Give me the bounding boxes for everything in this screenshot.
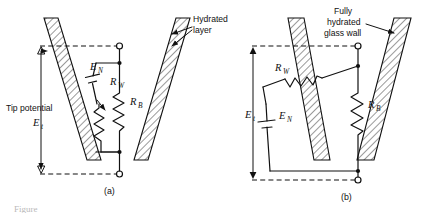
et-symbol-b: E xyxy=(244,109,252,120)
label-rw-a: R xyxy=(109,76,117,87)
label-rb-a: R xyxy=(129,96,137,107)
panel-label-a: (a) xyxy=(104,186,115,196)
label-rb-b: R xyxy=(367,99,375,110)
label-rw-sub-a: W xyxy=(118,81,125,90)
fully-hydrated-line1-b: Fully xyxy=(334,6,353,16)
label-rw-sub-b: W xyxy=(283,67,290,76)
fully-hydrated-line2-b: hydrated xyxy=(327,17,361,27)
hydrated-layer-line2-a: layer xyxy=(193,25,212,35)
terminal-top-a xyxy=(117,43,123,49)
label-rw-b: R xyxy=(274,62,282,73)
clipped-caption-text: Figure xyxy=(14,204,38,213)
hydrated-layer-line1-a: Hydrated xyxy=(193,14,228,24)
fully-hydrated-line3-b: glass wall xyxy=(324,28,361,38)
label-rb-sub-b: B xyxy=(376,104,381,113)
label-rb-sub-a: B xyxy=(138,101,143,110)
tip-potential-label-a: Tip potential xyxy=(6,103,53,113)
panel-label-b: (b) xyxy=(341,192,352,202)
clipped-caption: Figure xyxy=(14,204,38,213)
label-en-a: E xyxy=(89,61,97,72)
terminal-bottom-b xyxy=(355,177,361,183)
label-en-b: E xyxy=(278,110,286,121)
terminal-top-b xyxy=(355,43,361,49)
terminal-bottom-a xyxy=(117,171,123,177)
figure-root: E N R W R B Tip potential E t Hydrated l… xyxy=(0,0,441,213)
electrode-equivalent-circuit-figure: E N R W R B Tip potential E t Hydrated l… xyxy=(0,0,441,213)
tip-potential-symbol-a: E xyxy=(32,117,40,128)
